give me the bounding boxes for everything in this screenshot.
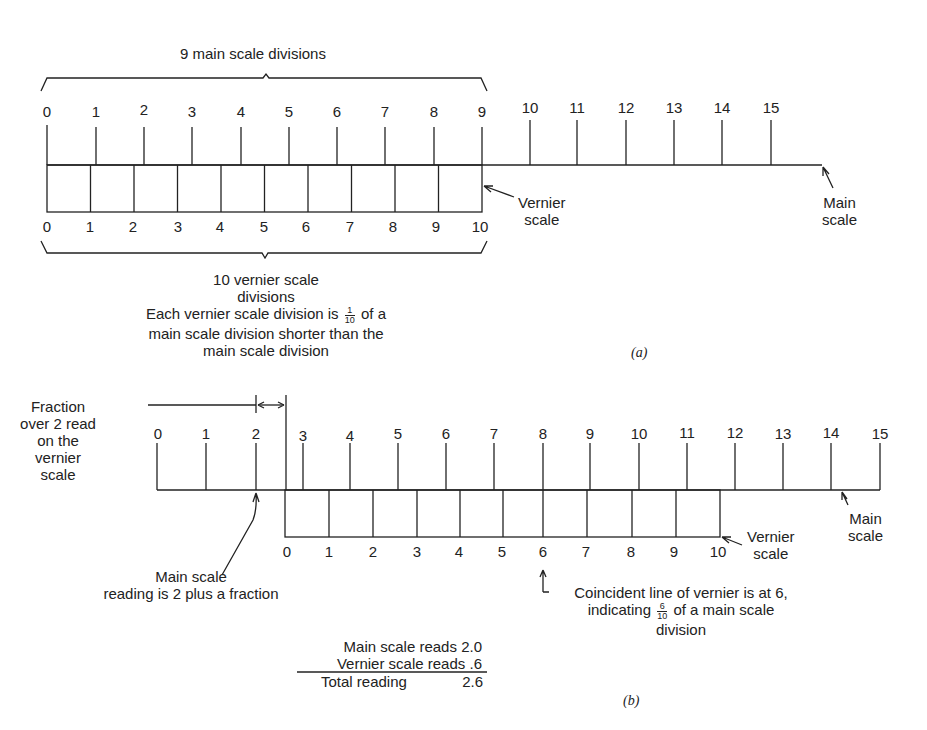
main-tick-label: 13 xyxy=(775,425,792,442)
fraction-over-2-label: Fraction over 2 read on the vernier scal… xyxy=(12,398,104,483)
main-tick-label: 7 xyxy=(381,103,389,120)
vernier-tick-label: 7 xyxy=(582,543,590,560)
main-tick-label: 12 xyxy=(727,424,744,441)
vernier-scale-label-a: Vernier scale xyxy=(518,194,566,228)
vernier-tick-label: 9 xyxy=(432,218,440,235)
main-tick-label: 11 xyxy=(569,99,585,116)
main-scale-label-a: Main scale xyxy=(822,194,857,228)
main-tick-label: 3 xyxy=(188,103,196,120)
vernier-tick-label: 6 xyxy=(302,218,310,235)
fraction-six-tenths: 610 xyxy=(657,602,667,621)
coincident-line-2: indicating 610 of a main scale xyxy=(556,601,806,621)
vernier-tick-label: 8 xyxy=(627,543,635,560)
vernier-tick-label: 8 xyxy=(389,218,397,235)
vernier-tick-label: 4 xyxy=(216,218,224,235)
vernier-tick-label: 2 xyxy=(369,543,377,560)
main-tick-label: 12 xyxy=(618,99,635,116)
vernier-tick-label: 4 xyxy=(455,543,463,560)
main-tick-label: 9 xyxy=(586,425,594,442)
note-line-1: Each vernier scale division is 110 of a xyxy=(96,305,436,325)
vernier-tick-label: 10 xyxy=(472,218,489,235)
main-tick-label: 14 xyxy=(823,424,840,441)
main-tick-label: 3 xyxy=(299,427,307,444)
vernier-tick-label: 10 xyxy=(710,543,727,560)
main-scale-reading-label: Main scale reading is 2 plus a fraction xyxy=(86,568,296,602)
main-tick-label: 4 xyxy=(346,427,354,444)
vernier-tick-label: 0 xyxy=(283,543,291,560)
main-tick-label: 10 xyxy=(631,425,648,442)
main-scale-label-b: Main scale xyxy=(848,510,883,544)
vernier-tick-label: 7 xyxy=(346,218,354,235)
vernier-scale-label-b: Vernier scale xyxy=(747,528,795,562)
main-tick-label: 8 xyxy=(430,103,438,120)
main-tick-label: 1 xyxy=(202,425,210,442)
top-brace xyxy=(41,74,487,91)
bottom-brace xyxy=(41,241,487,258)
main-tick-label: 5 xyxy=(285,103,293,120)
summary-vernier-row: Vernier scale reads .6 xyxy=(300,655,482,672)
fraction-one-tenth: 110 xyxy=(345,306,355,325)
vernier-tick-label: 1 xyxy=(325,543,333,560)
main-tick-label: 11 xyxy=(679,424,695,441)
caption-a: (a) xyxy=(631,344,647,361)
vernier-tick-label: 2 xyxy=(129,218,137,235)
main-tick-label: 4 xyxy=(237,103,245,120)
caption-b: (b) xyxy=(623,692,639,709)
main-tick-label: 15 xyxy=(872,425,889,442)
vernier-tick-label: 5 xyxy=(260,218,268,235)
top-brace-label: 9 main scale divisions xyxy=(180,45,326,62)
vernier-divisions-note: 10 vernier scale divisions Each vernier … xyxy=(96,271,436,359)
summary-total-row: Total reading 2.6 xyxy=(321,673,483,690)
vernier-tick-label: 6 xyxy=(539,543,547,560)
main-tick-label: 10 xyxy=(522,99,539,116)
main-tick-label: 7 xyxy=(490,425,498,442)
main-tick-label: 0 xyxy=(43,103,51,120)
main-tick-label: 5 xyxy=(394,425,402,442)
main-tick-label: 2 xyxy=(252,425,260,442)
main-tick-label: 15 xyxy=(763,99,780,116)
coincident-line-note: Coincident line of vernier is at 6, indi… xyxy=(556,584,806,638)
main-tick-label: 9 xyxy=(478,103,486,120)
vernier-tick-label: 9 xyxy=(670,543,678,560)
summary-main-row: Main scale reads 2.0 xyxy=(300,638,482,655)
vernier-tick-label: 0 xyxy=(43,218,51,235)
main-tick-label: 0 xyxy=(154,425,162,442)
main-tick-label: 13 xyxy=(666,99,683,116)
vernier-tick-label: 3 xyxy=(174,218,182,235)
vernier-tick-label: 5 xyxy=(498,543,506,560)
main-tick-label: 1 xyxy=(92,103,100,120)
vernier-tick-label: 3 xyxy=(413,543,421,560)
main-tick-label: 6 xyxy=(442,425,450,442)
main-tick-label: 14 xyxy=(714,99,731,116)
main-tick-label: 6 xyxy=(333,103,341,120)
vernier-tick-label: 1 xyxy=(86,218,94,235)
main-tick-label: 2 xyxy=(140,101,148,118)
main-tick-label: 8 xyxy=(539,425,547,442)
